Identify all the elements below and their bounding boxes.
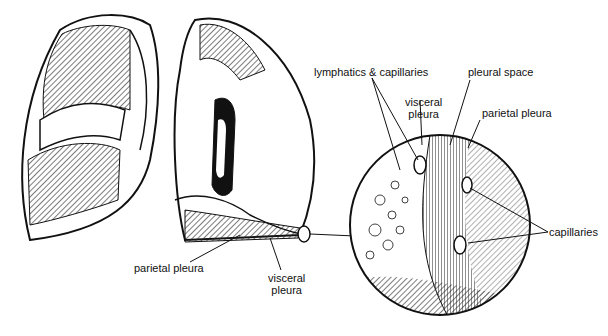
right-lung xyxy=(22,15,158,240)
label-line-1: visceral xyxy=(268,272,305,284)
label-parietal-pleura-main: parietal pleura xyxy=(134,262,204,274)
label-lymphatics-capillaries: lymphatics & capillaries xyxy=(314,66,428,78)
label-line-2: pleura xyxy=(405,108,442,120)
label-capillaries: capillaries xyxy=(549,226,598,238)
magnified-inset xyxy=(350,135,530,320)
label-line-2: pleura xyxy=(268,284,305,296)
left-lung xyxy=(175,18,315,242)
label-visceral-pleura-main: visceral pleura xyxy=(268,272,305,296)
label-line-1: visceral xyxy=(405,96,442,108)
label-visceral-pleura-inset: visceral pleura xyxy=(405,96,442,120)
label-parietal-pleura-inset: parietal pleura xyxy=(482,107,552,119)
label-pleural-space: pleural space xyxy=(468,66,533,78)
